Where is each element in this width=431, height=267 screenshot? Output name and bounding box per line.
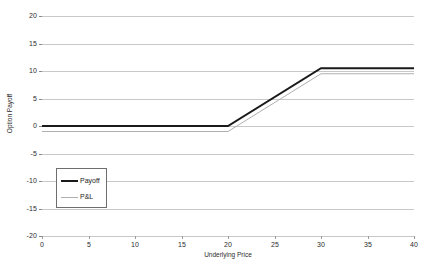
x-tick-label-40: 40 [399,241,429,248]
y-tick-label--15: -15 [0,205,37,212]
x-tick-label-30: 30 [306,241,336,248]
legend-swatch-pnl-icon [61,197,78,198]
legend-item-pnl: P&L [61,191,93,203]
y-tick-mark--15 [39,209,42,210]
legend-label-pnl: P&L [80,193,93,201]
x-tick-label-10: 10 [120,241,150,248]
y-tick-label--10: -10 [0,177,37,184]
x-tick-mark-10 [135,236,136,239]
legend-swatch-payoff-icon [61,180,78,182]
x-tick-label-25: 25 [260,241,290,248]
y-tick-mark-20 [39,16,42,17]
y-axis-title: Option Payoff [6,84,13,144]
x-tick-mark-30 [321,236,322,239]
x-tick-mark-5 [89,236,90,239]
x-tick-mark-40 [414,236,415,239]
x-tick-mark-0 [42,236,43,239]
y-tick-mark--10 [39,181,42,182]
y-tick-mark-10 [39,71,42,72]
x-tick-mark-35 [368,236,369,239]
x-tick-label-20: 20 [213,241,243,248]
legend-label-payoff: Payoff [80,177,100,185]
series-line-payoff [42,74,414,132]
y-tick-mark-5 [39,99,42,100]
legend-item-payoff: Payoff [61,175,100,187]
x-tick-label-15: 15 [167,241,197,248]
y-tick-label--20: -20 [0,232,37,239]
series-line-pnl [42,68,414,126]
x-tick-mark-25 [275,236,276,239]
y-tick-label-15: 15 [0,40,37,47]
x-tick-label-35: 35 [353,241,383,248]
y-tick-label--5: -5 [0,150,37,157]
legend: Payoff P&L [56,168,107,208]
y-tick-label-20: 20 [0,12,37,19]
y-tick-mark-15 [39,44,42,45]
y-tick-mark-0 [39,126,42,127]
x-tick-mark-15 [182,236,183,239]
y-tick-label-10: 10 [0,67,37,74]
y-tick-mark--5 [39,154,42,155]
chart-container: 20151050-5-10-15-200510152025303540 Opti… [0,0,431,267]
x-axis-title: Underlying Price [42,251,414,258]
x-tick-label-5: 5 [74,241,104,248]
x-tick-label-0: 0 [27,241,57,248]
x-tick-mark-20 [228,236,229,239]
